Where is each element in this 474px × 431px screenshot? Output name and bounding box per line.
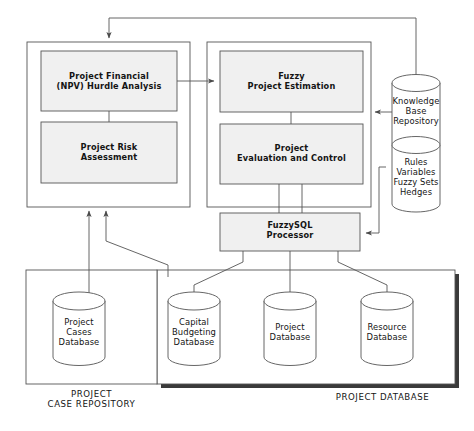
project-evaluation-control-box[interactable] [220,124,363,184]
project-cases-database-cylinder[interactable] [53,292,105,366]
capital-budgeting-database-cylinder[interactable] [168,292,220,365]
rules-variables-cylinder[interactable] [392,137,440,213]
diagram-vector-layer [0,0,474,431]
architecture-diagram: Project Financial (NPV) Hurdle Analysis … [0,0,474,431]
resource-database-cylinder[interactable] [361,292,413,366]
project-database-cylinder[interactable] [264,292,316,366]
project-risk-assessment-box[interactable] [41,122,177,183]
npv-hurdle-analysis-box[interactable] [41,51,177,111]
fuzzysql-processor-box[interactable] [220,213,360,251]
fuzzy-project-estimation-box[interactable] [220,51,363,112]
connector-repository-to-analysis-panel [106,211,168,277]
